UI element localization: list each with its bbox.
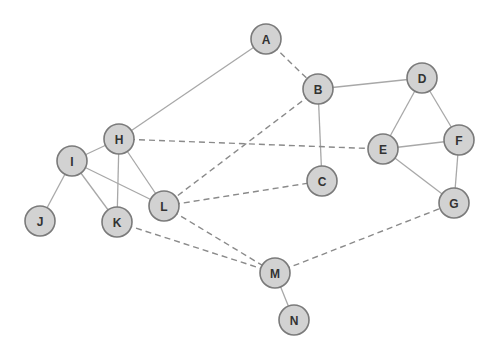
edge-a-h xyxy=(119,39,266,139)
node-h: H xyxy=(104,124,134,154)
edges-layer xyxy=(40,39,459,320)
node-a: A xyxy=(251,24,281,54)
node-b: B xyxy=(303,74,333,104)
nodes-layer: ABCDEFGHIJKLMN xyxy=(25,24,474,335)
node-label: E xyxy=(379,143,387,157)
node-label: K xyxy=(113,216,122,230)
node-i: I xyxy=(57,146,87,176)
node-label: C xyxy=(318,175,327,189)
node-label: M xyxy=(270,267,280,281)
edge-l-m xyxy=(164,206,275,273)
node-label: J xyxy=(37,215,44,229)
node-label: H xyxy=(115,133,124,147)
node-f: F xyxy=(444,125,474,155)
edge-k-m xyxy=(117,222,275,273)
node-label: N xyxy=(290,314,299,328)
node-k: K xyxy=(102,207,132,237)
node-label: I xyxy=(70,155,73,169)
node-d: D xyxy=(407,63,437,93)
node-label: F xyxy=(455,134,462,148)
node-label: A xyxy=(262,33,271,47)
node-g: G xyxy=(439,188,469,218)
edge-m-g xyxy=(275,203,454,273)
node-e: E xyxy=(368,134,398,164)
node-label: B xyxy=(314,83,323,97)
edge-b-l xyxy=(164,89,318,206)
node-c: C xyxy=(307,166,337,196)
network-graph: ABCDEFGHIJKLMN xyxy=(0,0,498,357)
node-l: L xyxy=(149,191,179,221)
node-m: M xyxy=(260,258,290,288)
node-label: D xyxy=(418,72,427,86)
node-label: G xyxy=(449,197,458,211)
edge-l-c xyxy=(164,181,322,206)
node-n: N xyxy=(279,305,309,335)
node-j: J xyxy=(25,206,55,236)
node-label: L xyxy=(160,200,167,214)
